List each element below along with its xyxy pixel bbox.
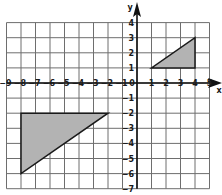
x-tick-label: 3 xyxy=(178,79,184,88)
y-tick-label: 2 xyxy=(128,49,134,58)
x-tick-label: 1 xyxy=(149,79,155,88)
grid-lines xyxy=(7,23,210,189)
y-tick-label: −2 xyxy=(122,109,134,118)
x-tick-label: 4 xyxy=(192,79,198,88)
y-tick-label: −1 xyxy=(122,94,135,103)
x-tick-label: −6 xyxy=(43,79,56,88)
y-tick-label: 3 xyxy=(128,34,134,43)
x-tick-label: 2 xyxy=(163,79,169,88)
y-tick-label: −7 xyxy=(122,185,134,194)
x-tick-label: −3 xyxy=(86,79,98,88)
y-tick-label: 4 xyxy=(128,19,134,28)
origin-label: 0 xyxy=(129,79,135,88)
y-tick-label: −6 xyxy=(122,170,135,179)
x-tick-label: −8 xyxy=(14,79,27,88)
x-tick-label: −5 xyxy=(57,79,70,88)
x-axis-label: x xyxy=(216,86,222,95)
y-tick-label: −4 xyxy=(122,139,135,148)
y-tick-label: 1 xyxy=(128,64,134,73)
x-tick-label: −2 xyxy=(101,79,113,88)
x-tick-label: −9 xyxy=(0,79,12,88)
x-tick-label: 5 xyxy=(207,79,213,88)
y-tick-label: −3 xyxy=(122,124,134,133)
x-tick-label: −1 xyxy=(115,79,128,88)
x-tick-label: −4 xyxy=(72,79,85,88)
x-tick-label: −7 xyxy=(28,79,40,88)
coordinate-grid-svg: yx0−9−8−7−6−5−4−3−2−1123454321−1−2−3−4−5… xyxy=(0,0,222,195)
y-axis-label: y xyxy=(127,3,133,12)
y-tick-label: −5 xyxy=(122,155,135,164)
coordinate-plane: yx0−9−8−7−6−5−4−3−2−1123454321−1−2−3−4−5… xyxy=(0,0,222,195)
